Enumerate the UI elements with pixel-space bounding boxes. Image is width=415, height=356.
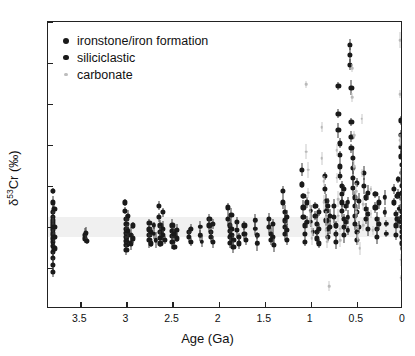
y-axis-label-text: δ53Cr (‰) xyxy=(5,150,21,206)
data-point xyxy=(347,52,352,57)
data-point xyxy=(369,213,372,216)
data-point xyxy=(335,177,338,180)
data-point xyxy=(84,238,89,243)
y-tick xyxy=(48,22,53,23)
data-point xyxy=(322,180,325,183)
data-point xyxy=(331,203,336,208)
data-point xyxy=(321,157,324,160)
data-point xyxy=(172,244,177,249)
data-point xyxy=(351,96,354,99)
data-point xyxy=(373,205,378,210)
data-point xyxy=(52,246,57,251)
x-tick-label: 2 xyxy=(215,312,221,324)
data-point xyxy=(321,126,324,129)
x-tick xyxy=(126,302,127,307)
x-tick-label: 3 xyxy=(122,312,128,324)
data-point xyxy=(338,152,343,157)
data-point xyxy=(255,241,259,245)
data-point xyxy=(328,285,331,288)
data-point xyxy=(400,149,402,154)
data-point xyxy=(326,203,331,208)
data-point xyxy=(393,233,398,238)
ironstone-marker-icon xyxy=(58,38,74,44)
data-point xyxy=(382,195,386,199)
data-point xyxy=(391,200,396,205)
data-point xyxy=(373,192,378,197)
data-point xyxy=(338,174,343,179)
data-point xyxy=(376,200,381,205)
data-point xyxy=(341,233,346,238)
y-axis-element: Cr (‰) xyxy=(6,150,21,189)
data-point xyxy=(351,156,356,161)
x-tick xyxy=(80,302,81,307)
legend-item-siliciclastic[interactable]: siliciclastic xyxy=(58,49,208,66)
data-point xyxy=(349,85,354,90)
data-point xyxy=(400,277,402,280)
chart-figure: δ53Cr (‰) Age (Ga) -1-0.500.511.522.5 3.… xyxy=(0,0,415,356)
legend-item-carbonate[interactable]: carbonate xyxy=(58,66,208,83)
data-point xyxy=(400,236,402,241)
data-point xyxy=(339,239,342,242)
data-point xyxy=(210,239,215,244)
y-tick xyxy=(48,145,53,146)
data-point xyxy=(299,167,304,172)
x-tick xyxy=(172,302,173,307)
data-point xyxy=(369,188,372,191)
data-point xyxy=(326,240,329,243)
data-point xyxy=(50,270,55,275)
y-tick xyxy=(48,104,53,105)
data-point xyxy=(355,211,358,214)
data-point xyxy=(163,238,168,243)
data-point xyxy=(322,201,325,204)
y-axis-label: δ53Cr (‰) xyxy=(0,0,28,356)
siliciclastic-marker-icon xyxy=(58,55,74,60)
x-tick-label: 1.5 xyxy=(256,312,271,324)
data-point xyxy=(52,234,57,239)
data-point xyxy=(284,238,289,243)
data-point xyxy=(353,134,356,137)
data-point xyxy=(50,188,55,193)
data-point xyxy=(335,149,338,152)
data-point xyxy=(303,239,308,244)
x-tick-label: 2.5 xyxy=(164,312,179,324)
data-point xyxy=(399,39,402,42)
data-point xyxy=(351,67,354,70)
data-point xyxy=(341,187,346,192)
plot-area: ironstone/iron formation siliciclastic c… xyxy=(47,21,402,308)
data-point xyxy=(362,183,367,188)
data-point xyxy=(124,247,129,252)
data-point xyxy=(362,224,365,227)
data-point xyxy=(305,150,308,153)
data-point xyxy=(307,191,310,194)
legend-item-ironstone[interactable]: ironstone/iron formation xyxy=(58,32,208,49)
data-point xyxy=(347,42,352,47)
carbonate-marker-icon xyxy=(58,73,74,76)
data-point xyxy=(316,210,321,215)
data-point xyxy=(357,237,360,240)
data-point xyxy=(336,83,341,88)
x-tick-label: 0.5 xyxy=(349,312,364,324)
legend: ironstone/iron formation siliciclastic c… xyxy=(58,32,208,83)
data-point xyxy=(310,227,313,230)
data-point xyxy=(399,93,402,96)
data-point xyxy=(336,128,341,133)
data-point xyxy=(188,239,193,244)
data-point xyxy=(299,182,304,187)
data-point xyxy=(122,200,127,205)
data-point xyxy=(316,241,321,246)
y-axis-mass-number: 53 xyxy=(5,189,15,198)
data-point xyxy=(130,236,135,241)
data-point xyxy=(375,234,380,239)
legend-label-carbonate: carbonate xyxy=(77,68,133,82)
data-point xyxy=(333,239,338,244)
data-point xyxy=(322,187,327,192)
data-point xyxy=(174,236,179,241)
data-point xyxy=(355,190,358,193)
y-tick xyxy=(48,63,53,64)
data-point xyxy=(399,154,402,159)
x-tick xyxy=(219,302,220,307)
data-point xyxy=(200,240,204,244)
data-point xyxy=(400,259,402,262)
data-point xyxy=(400,226,402,231)
data-point xyxy=(353,165,356,168)
